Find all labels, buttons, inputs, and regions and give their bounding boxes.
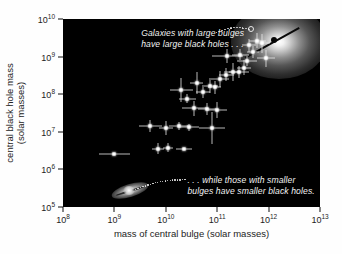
figure: central black hole mass (solar masses) m… (0, 0, 342, 254)
leader-dot-smaller-bulges (179, 179, 180, 180)
leader-dot-smaller-bulges (147, 184, 148, 185)
leader-dot-smaller-bulges (152, 183, 153, 184)
data-point (195, 81, 198, 84)
data-point (164, 127, 167, 130)
leader-dot-smaller-bulges (167, 180, 168, 181)
x-tick-label: 109 (108, 213, 122, 225)
leader-dot-smaller-bulges (160, 181, 161, 182)
data-point (237, 71, 240, 74)
annotation-large-bulges: Galaxies with large bulges have large bl… (141, 28, 244, 50)
x-tick-mark (165, 207, 166, 212)
x-tick-mark (217, 207, 218, 212)
annotation-smaller-bulges-line1: . . . while those with smaller (187, 175, 314, 186)
y-tick-label: 105 (41, 201, 55, 213)
data-point (246, 60, 249, 63)
data-point (149, 125, 152, 128)
x-tick-mark (268, 207, 269, 212)
annotation-large-bulges-line2: have large black holes . . . (141, 39, 244, 50)
y-tick-label: 108 (41, 88, 55, 100)
x-tick-label: 1011 (209, 213, 226, 225)
data-point (167, 146, 170, 149)
data-point (213, 86, 216, 89)
data-point (265, 57, 268, 60)
x-tick-label: 1012 (260, 213, 277, 225)
data-point (256, 39, 259, 42)
annotation-smaller-bulges-line2: bulges have smaller black holes. (187, 186, 314, 197)
data-point (187, 126, 190, 129)
data-point (218, 78, 221, 81)
x-tick-mark (114, 207, 115, 212)
leader-dot-smaller-bulges (174, 179, 175, 180)
highlight-circle-marker (248, 26, 254, 32)
x-tick-label: 108 (56, 213, 70, 225)
annotation-smaller-bulges: . . . while those with smaller bulges ha… (187, 175, 314, 197)
leader-dot-smaller-bulges (172, 179, 173, 180)
x-axis-label: mass of central bulge (solar masses) (63, 228, 320, 239)
leader-dot-smaller-bulges (162, 181, 163, 182)
x-tick-label: 1013 (311, 213, 328, 225)
data-point (226, 54, 229, 57)
data-point (201, 91, 204, 94)
data-point (157, 147, 160, 150)
data-point (239, 53, 242, 56)
data-point (186, 97, 189, 100)
y-tick-label: 1010 (38, 13, 55, 25)
leader-dot-smaller-bulges (177, 179, 178, 180)
data-point (242, 66, 245, 69)
y-axis-label-line1: central black hole mass (4, 63, 15, 162)
leader-dot-smaller-bulges (165, 180, 166, 181)
annotation-large-bulges-line1: Galaxies with large bulges (141, 28, 244, 39)
data-point (113, 153, 116, 156)
y-axis-label-line2: (solar masses) (15, 82, 26, 144)
data-point (248, 44, 251, 47)
x-tick-mark (320, 207, 321, 212)
leader-dot-smaller-bulges (145, 185, 146, 186)
data-point (252, 51, 255, 54)
x-tick-label: 1010 (157, 213, 174, 225)
leader-dot-smaller-bulges (155, 182, 156, 183)
leader-dot-smaller-bulges (170, 180, 171, 181)
y-axis-label: central black hole mass (solar masses) (4, 19, 26, 207)
x-tick-mark (63, 207, 64, 212)
data-point (180, 88, 183, 91)
spiral-galaxy-image (111, 180, 151, 202)
data-point (193, 107, 196, 110)
y-tick-label: 109 (41, 51, 55, 63)
leader-dot-smaller-bulges (182, 179, 183, 180)
leader-dot-smaller-bulges (184, 179, 185, 180)
leader-dot-smaller-bulges (150, 184, 151, 185)
leader-dot-smaller-bulges (157, 182, 158, 183)
plot-area: Galaxies with large bulges have large bl… (63, 19, 320, 207)
y-tick-label: 106 (41, 163, 55, 175)
data-point (216, 108, 219, 111)
data-point (261, 42, 264, 45)
y-tick-label: 107 (41, 126, 55, 138)
data-point (211, 127, 214, 130)
figure-caption (63, 246, 328, 254)
data-point (182, 148, 185, 151)
data-point (225, 73, 228, 76)
